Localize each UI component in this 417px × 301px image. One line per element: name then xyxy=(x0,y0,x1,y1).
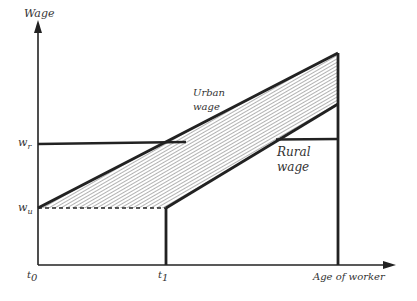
rural-wage-label-line1: Rural xyxy=(277,146,311,158)
x-axis-arrow-icon xyxy=(383,261,396,269)
urban-wage-label-line2: wage xyxy=(193,102,220,112)
wr-tick-label: wr xyxy=(18,137,31,148)
wage-diagram xyxy=(0,0,417,301)
wr-line-right xyxy=(276,139,338,140)
x-axis-label: Age of worker xyxy=(313,272,385,282)
y-axis-label: Wage xyxy=(24,8,54,19)
t0-tick-label: t0 xyxy=(27,270,37,280)
y-axis-arrow-icon xyxy=(34,20,42,33)
t1-tick-label: t1 xyxy=(158,270,168,280)
urban-wage-label-line1: Urban xyxy=(193,88,225,98)
rural-wage-label-line2: wage xyxy=(277,161,309,173)
wu-tick-label: wu xyxy=(18,202,33,213)
